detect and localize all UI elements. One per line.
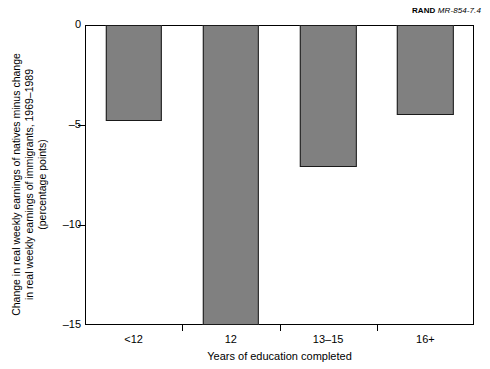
bar-cell — [182, 25, 279, 325]
x-tick-label: 12 — [182, 332, 279, 346]
y-tick-label: –10 — [63, 218, 81, 231]
x-tick-label: <12 — [85, 332, 182, 346]
x-tick-mark — [280, 325, 281, 331]
y-axis-title: Change in real weekly earnings of native… — [0, 0, 58, 369]
y-tick-label: –15 — [63, 318, 81, 331]
bar — [105, 25, 161, 121]
bar-cell — [85, 25, 182, 325]
bar — [203, 25, 259, 325]
bars-layer: 0–5–10–15 — [85, 25, 474, 325]
y-axis-title-line: (percentage points) — [36, 53, 49, 316]
y-tick-label: –5 — [69, 118, 81, 131]
bar — [397, 25, 453, 115]
y-axis-title-line: in real weekly earnings of immigrants, 1… — [23, 53, 36, 316]
bar-cell — [377, 25, 474, 325]
document-number: MR-854-7.4 — [438, 6, 481, 15]
x-tick-label: 16+ — [377, 332, 474, 346]
source-credit: RAND MR-854-7.4 — [412, 6, 481, 16]
x-axis-title: Years of education completed — [85, 349, 474, 363]
y-tick-label: 0 — [75, 18, 81, 31]
rand-logo-text: RAND — [412, 6, 436, 15]
y-axis-title-line: Change in real weekly earnings of native… — [10, 53, 23, 316]
x-tick-label: 13–15 — [280, 332, 377, 346]
bar — [300, 25, 356, 167]
x-tick-mark — [182, 325, 183, 331]
chart-figure: RAND MR-854-7.4 0–5–10–15 <121213–1516+ … — [0, 0, 490, 369]
y-axis-title-lines: Change in real weekly earnings of native… — [10, 53, 49, 316]
x-tick-mark — [377, 325, 378, 331]
bar-cell — [280, 25, 377, 325]
